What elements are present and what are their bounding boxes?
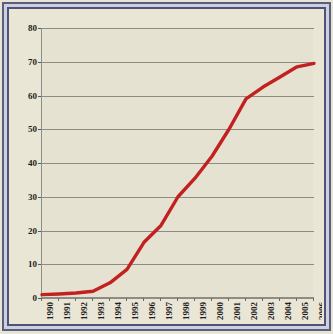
x-axis-tick-mark xyxy=(262,298,263,301)
gridline xyxy=(42,28,314,29)
line-series-path xyxy=(42,63,314,294)
plot-area xyxy=(41,28,313,298)
x-axis-tick-mark xyxy=(177,298,178,301)
x-axis-tick-label: 1996 xyxy=(147,302,157,320)
x-axis-tick-label: 2002 xyxy=(249,302,259,320)
gridline xyxy=(42,231,314,232)
x-axis-tick-mark xyxy=(228,298,229,301)
x-axis-tick-mark xyxy=(126,298,127,301)
y-axis-tick-mark xyxy=(38,62,41,63)
x-axis-tick-label: 1990 xyxy=(45,302,55,320)
y-axis-tick-label: 50 xyxy=(28,124,37,134)
y-axis-tick-label: 20 xyxy=(28,226,37,236)
x-axis-tick-label: 2001 xyxy=(232,302,242,320)
chart-frame-inner: 01020304050607080 1990199119921993199419… xyxy=(7,7,326,326)
x-axis-tick-label: 1991 xyxy=(62,302,72,320)
x-axis-tick-label: 2006 xyxy=(317,302,322,320)
gridline xyxy=(42,163,314,164)
y-axis-tick-mark xyxy=(38,28,41,29)
chart-frame-outer: 01020304050607080 1990199119921993199419… xyxy=(0,0,333,334)
y-axis-tick-label: 10 xyxy=(28,259,37,269)
y-axis-tick-label: 60 xyxy=(28,91,37,101)
y-axis-tick-mark xyxy=(38,129,41,130)
x-axis-tick-mark xyxy=(160,298,161,301)
x-axis-line xyxy=(42,297,314,298)
x-axis-tick-label: 1999 xyxy=(198,302,208,320)
x-axis-tick-mark xyxy=(75,298,76,301)
gridline xyxy=(42,298,314,299)
y-axis-tick-mark xyxy=(38,96,41,97)
gridline xyxy=(42,62,314,63)
x-axis-tick-label: 1992 xyxy=(79,302,89,320)
x-axis-tick-mark xyxy=(58,298,59,301)
y-axis-tick-mark xyxy=(38,264,41,265)
x-axis-tick-label: 1998 xyxy=(181,302,191,320)
x-axis-tick-label: 1993 xyxy=(96,302,106,320)
x-axis-tick-mark xyxy=(279,298,280,301)
plot-wrapper: 01020304050607080 1990199119921993199419… xyxy=(41,28,313,298)
gridline xyxy=(42,129,314,130)
x-axis-tick-mark xyxy=(92,298,93,301)
x-axis-tick-label: 2005 xyxy=(300,302,310,320)
x-axis-tick-label: 2000 xyxy=(215,302,225,320)
y-axis-tick-label: 40 xyxy=(28,158,37,168)
x-axis-tick-label: 1994 xyxy=(113,302,123,320)
x-axis-tick-mark xyxy=(194,298,195,301)
x-axis-tick-mark xyxy=(211,298,212,301)
x-axis-tick-mark xyxy=(143,298,144,301)
y-axis-tick-label: 70 xyxy=(28,57,37,67)
gridline xyxy=(42,264,314,265)
x-axis-tick-label: 2004 xyxy=(283,302,293,320)
y-axis-tick-mark xyxy=(38,163,41,164)
x-axis-tick-mark xyxy=(245,298,246,301)
x-axis-tick-label: 2003 xyxy=(266,302,276,320)
x-axis-tick-mark xyxy=(41,298,42,301)
gridline xyxy=(42,197,314,198)
y-axis-tick-label: 30 xyxy=(28,192,37,202)
x-axis-tick-mark xyxy=(109,298,110,301)
x-axis-tick-label: 1995 xyxy=(130,302,140,320)
y-axis-tick-mark xyxy=(38,231,41,232)
chart-frame-band: 01020304050607080 1990199119921993199419… xyxy=(2,2,331,331)
y-axis-tick-label: 80 xyxy=(28,23,37,33)
y-axis-tick-mark xyxy=(38,197,41,198)
gridline xyxy=(42,96,314,97)
x-axis-tick-mark xyxy=(296,298,297,301)
chart-card: 01020304050607080 1990199119921993199419… xyxy=(11,11,322,322)
y-axis-tick-label: 0 xyxy=(33,293,38,303)
x-axis-tick-label: 1997 xyxy=(164,302,174,320)
x-axis-tick-mark xyxy=(313,298,314,301)
